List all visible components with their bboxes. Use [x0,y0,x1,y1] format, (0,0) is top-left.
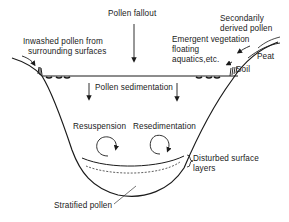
floating-aquatics-left-icon [46,77,70,78]
label-disturbed-1: Disturbed surface [193,154,259,164]
label-stratified-pollen: Stratified pollen [54,201,112,211]
label-resedimentation: Resedimentation [133,122,196,132]
label-pollen-fallout: Pollen fallout [108,9,156,19]
label-disturbed-2: layers [193,164,215,174]
label-pollen-sedimentation: Pollen sedimentation [95,83,173,93]
label-secondary-1: Secondarily [220,14,264,24]
resuspension-curl-icon [97,137,116,156]
label-emergent-2: floating [172,45,199,55]
label-emergent-1: Emergent vegetation [172,35,249,45]
emergent-arrow-icon [228,62,232,64]
floating-aquatics-right-icon [196,77,220,78]
label-emergent-3: aquatics,etc. [172,55,219,65]
label-peat: Peat [257,52,274,62]
label-soil: Soil [236,65,250,75]
label-inwashed-1: Inwashed pollen from [23,37,103,47]
emergent-vegetation-left-icon [38,67,42,75]
disturbed-layer-top [82,156,184,166]
label-secondary-2: derived pollen [220,24,272,34]
secondary-arrow-icon [239,46,250,52]
label-inwashed-2: surrounding surfaces [28,47,106,57]
label-resuspension: Resuspension [73,122,126,132]
resedimentation-curl-icon [150,135,169,154]
